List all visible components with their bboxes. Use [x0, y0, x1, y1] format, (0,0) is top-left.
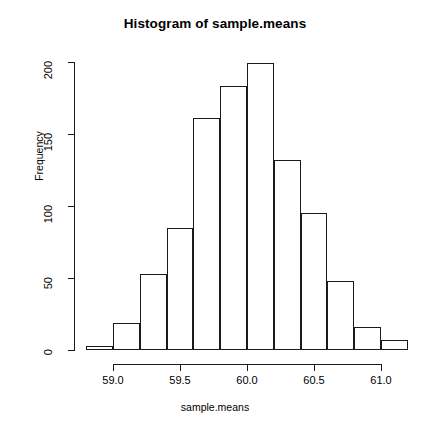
- x-axis-tick: [314, 364, 315, 371]
- x-axis-tick-label: 59.5: [160, 374, 200, 386]
- histogram-figure: Histogram of sample.means Frequency 0501…: [0, 0, 430, 435]
- x-axis-tick: [247, 364, 248, 371]
- x-axis-tick-label: 59.0: [93, 374, 133, 386]
- x-axis-tick: [180, 364, 181, 371]
- x-axis-tick: [113, 364, 114, 371]
- x-axis-tick-label: 61.0: [361, 374, 401, 386]
- x-axis-tick: [381, 364, 382, 371]
- x-axis-tick-label: 60.5: [294, 374, 334, 386]
- x-axis: sample.means 59.059.560.060.561.0: [0, 0, 430, 435]
- x-axis-title: sample.means: [0, 401, 430, 413]
- x-axis-tick-label: 60.0: [227, 374, 267, 386]
